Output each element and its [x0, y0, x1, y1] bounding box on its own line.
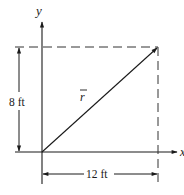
y-axis-label: y [34, 3, 42, 18]
vector-diagram: y x r 8 ft 12 ft [0, 0, 184, 195]
height-dimension-label: 8 ft [9, 96, 25, 108]
vector-label: r [80, 90, 87, 104]
x-axis-label: x [179, 145, 184, 159]
width-dimension-label: 12 ft [86, 168, 108, 180]
position-vector-r [42, 48, 157, 152]
svg-text:r: r [80, 90, 85, 104]
